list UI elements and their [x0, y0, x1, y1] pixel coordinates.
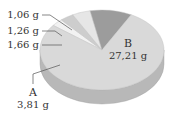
label-1-66-g: 1,66 g	[7, 39, 39, 50]
pie-chart: 1,06 g 1,26 g 1,66 g B 27,21 g A 3,81 g	[0, 0, 170, 118]
label-a-name: A	[28, 86, 38, 99]
label-1-26-g: 1,26 g	[7, 25, 39, 36]
label-1-06-g: 1,06 g	[7, 9, 39, 20]
label-b-name: B	[124, 37, 132, 50]
label-a-value: 3,81 g	[17, 99, 49, 110]
label-b-value: 27,21 g	[109, 50, 148, 61]
